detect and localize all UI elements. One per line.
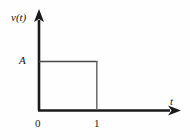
pulse-waveform-figure: v(t) A t 0 1 [0, 0, 190, 140]
x-tick-label-0: 0 [35, 118, 41, 129]
x-tick-label-1: 1 [94, 118, 100, 129]
x-axis-label: t [170, 96, 173, 107]
y-axis-label: v(t) [11, 12, 26, 23]
amplitude-label: A [19, 55, 26, 66]
